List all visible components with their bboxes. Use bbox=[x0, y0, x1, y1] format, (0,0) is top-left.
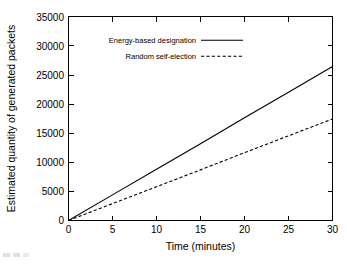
x-tick-label: 20 bbox=[239, 224, 251, 235]
line-chart: 0 5000 10000 15000 20000 25000 30000 350… bbox=[0, 0, 347, 264]
y-tick-label: 30000 bbox=[36, 41, 64, 52]
y-tick-label: 35000 bbox=[36, 12, 64, 23]
legend-label-energy-based-designation: Energy-based designation bbox=[109, 36, 196, 45]
y-tick-label: 20000 bbox=[36, 99, 64, 110]
y-tick-label: 5000 bbox=[42, 186, 65, 197]
x-axis-ticks bbox=[69, 17, 333, 221]
x-tick-labels: 0 5 10 15 20 25 30 bbox=[66, 224, 339, 235]
y-tick-label: 10000 bbox=[36, 157, 64, 168]
x-tick-label: 25 bbox=[283, 224, 295, 235]
y-tick-label: 15000 bbox=[36, 128, 64, 139]
y-tick-labels: 0 5000 10000 15000 20000 25000 30000 350… bbox=[36, 12, 64, 227]
y-axis-ticks bbox=[69, 17, 333, 221]
y-tick-label: 25000 bbox=[36, 70, 64, 81]
y-axis-title: Estimated quantity of generated packets bbox=[5, 25, 17, 212]
x-axis-title: Time (minutes) bbox=[166, 240, 236, 252]
series-energy-based-designation bbox=[69, 67, 333, 221]
plot-frame bbox=[69, 17, 333, 221]
x-tick-label: 30 bbox=[327, 224, 339, 235]
x-tick-label: 10 bbox=[151, 224, 163, 235]
series-random-self-election bbox=[69, 119, 333, 221]
chart-figure: 0 5000 10000 15000 20000 25000 30000 350… bbox=[0, 0, 347, 264]
x-tick-label: 5 bbox=[110, 224, 116, 235]
page-edge-artifact bbox=[3, 253, 29, 257]
x-tick-label: 0 bbox=[66, 224, 72, 235]
legend-label-random-self-election: Random self-election bbox=[126, 52, 196, 61]
chart-legend: Energy-based designation Random self-ele… bbox=[109, 36, 243, 61]
x-tick-label: 15 bbox=[195, 224, 207, 235]
y-tick-label: 0 bbox=[58, 215, 64, 226]
